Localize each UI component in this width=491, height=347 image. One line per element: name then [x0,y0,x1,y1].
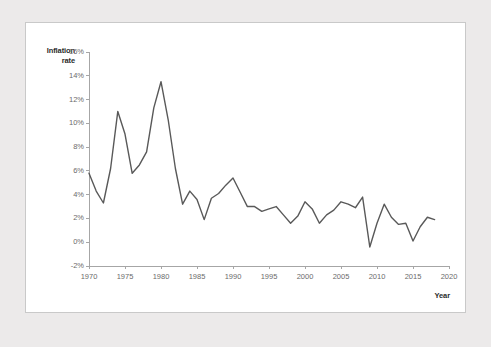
y-tick-label: 16% [58,47,84,56]
x-tick-label: 1975 [108,272,142,281]
x-tick-label: 1970 [72,272,106,281]
x-tick-label: 2005 [324,272,358,281]
chart-panel: Inflation rate Year -2%0%2%4%6%8%10%12%1… [25,22,466,313]
y-tick-label: 10% [58,118,84,127]
x-tick-label: 2010 [360,272,394,281]
x-tick-label: 2015 [396,272,430,281]
y-tick-label: 8% [58,142,84,151]
y-tick-label: 12% [58,95,84,104]
chart-page: Inflation rate Year -2%0%2%4%6%8%10%12%1… [0,0,491,347]
x-tick-label: 1980 [144,272,178,281]
y-tick-label: 4% [58,190,84,199]
x-tick-label: 2020 [432,272,466,281]
x-tick-label: 1990 [216,272,250,281]
y-tick-label: -2% [58,261,84,270]
plot-area: -2%0%2%4%6%8%10%12%14%16%197019751980198… [26,23,465,312]
y-tick-label: 2% [58,213,84,222]
x-tick-label: 2000 [288,272,322,281]
y-tick-label: 6% [58,166,84,175]
x-tick-label: 1985 [180,272,214,281]
inflation-line-chart [26,23,465,312]
x-tick-label: 1995 [252,272,286,281]
y-tick-label: 14% [58,71,84,80]
y-tick-label: 0% [58,237,84,246]
